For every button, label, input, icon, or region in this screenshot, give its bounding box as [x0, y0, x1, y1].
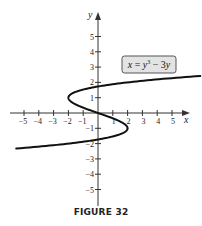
- y-tick-label: −4: [85, 170, 94, 179]
- x-axis-label: x: [183, 114, 189, 125]
- x-tick-label: 5: [171, 117, 175, 126]
- y-axis-label: y: [87, 9, 93, 20]
- x-tick-label: −4: [34, 117, 43, 126]
- x-tick-label: 3: [141, 117, 145, 126]
- y-tick-label: −1: [85, 124, 94, 133]
- equation-label-box: x = y3 − 3y: [122, 56, 176, 73]
- y-tick-label: 1: [90, 94, 94, 103]
- y-axis-arrow-icon: [95, 12, 101, 20]
- y-tick-label: −3: [85, 155, 94, 164]
- curve-x-equals-y-cubed-minus-3y: [16, 76, 200, 149]
- x-tick-label: 2: [127, 117, 131, 126]
- x-tick-label: −2: [63, 117, 72, 126]
- x-tick-label: 4: [156, 117, 160, 126]
- y-tick-label: 4: [90, 48, 94, 57]
- axes: [10, 16, 186, 206]
- figure-plot: −5−4−3−2−112345−5−4−3−2−112345 x y x = y…: [0, 0, 202, 226]
- x-tick-label: −5: [19, 117, 28, 126]
- y-tick-label: −5: [85, 186, 94, 195]
- y-tick-label: 2: [90, 78, 94, 87]
- x-tick-label: −3: [48, 117, 57, 126]
- y-tick-label: 3: [90, 63, 94, 72]
- y-tick-label: 5: [90, 33, 94, 42]
- figure-caption: FIGURE 32: [0, 207, 202, 217]
